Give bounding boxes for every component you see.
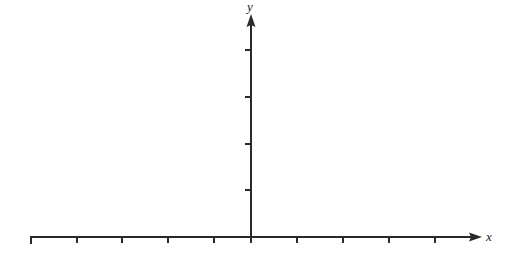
coordinate-plane: x y xyxy=(0,0,521,257)
x-axis-label: x xyxy=(485,229,492,244)
y-axis-label: y xyxy=(245,0,253,14)
